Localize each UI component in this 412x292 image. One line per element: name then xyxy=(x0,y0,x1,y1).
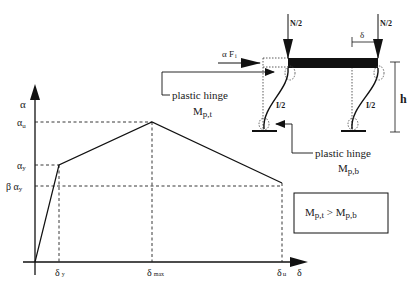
tick-delta-y: δy xyxy=(55,267,65,278)
column-left-label: I/2 xyxy=(276,101,285,110)
x-axis-label: δ xyxy=(297,267,302,278)
load-right-label: N/2 xyxy=(380,19,392,28)
hinge-bottom-moment: Mp,b xyxy=(338,162,360,176)
tick-beta-alpha-y: β αy xyxy=(6,181,23,193)
hinge-top-label: plastic hinge xyxy=(172,89,228,101)
capacity-curve xyxy=(35,122,282,262)
hinge-top-moment: Mp,t xyxy=(193,105,213,119)
column-right-label: I/2 xyxy=(366,101,375,110)
y-axis-label: α xyxy=(20,98,26,110)
tick-delta-max: δmax xyxy=(147,267,164,278)
x-axis-arrow-icon xyxy=(290,257,308,267)
hinge-bottom-label: plastic hinge xyxy=(315,147,371,159)
lateral-force-label: α Fi xyxy=(222,49,237,59)
drift-label: δ xyxy=(360,30,364,40)
height-label: h xyxy=(400,92,407,106)
load-left-label: N/2 xyxy=(290,19,302,28)
hinge-bottom-callout xyxy=(276,124,292,153)
tick-alpha-y: αy xyxy=(17,160,26,172)
portal-frame-schematic: N/2 N/2 δ α Fi h I/2 I/2 plastic hinge M… xyxy=(162,14,407,176)
hinge-top-right-icon xyxy=(374,66,384,80)
beam xyxy=(288,58,378,68)
column-right xyxy=(352,68,378,129)
condition-box: Mp,t > Mp,b xyxy=(294,193,388,233)
y-axis-arrow-icon xyxy=(30,84,40,100)
tick-delta-u: δu xyxy=(277,267,287,278)
guide-lines xyxy=(35,122,282,262)
undeformed-outline xyxy=(263,58,352,130)
tick-alpha-u: αu xyxy=(17,117,26,130)
diagram-canvas: α δ αu αy β αy δy δmax xyxy=(0,0,412,292)
